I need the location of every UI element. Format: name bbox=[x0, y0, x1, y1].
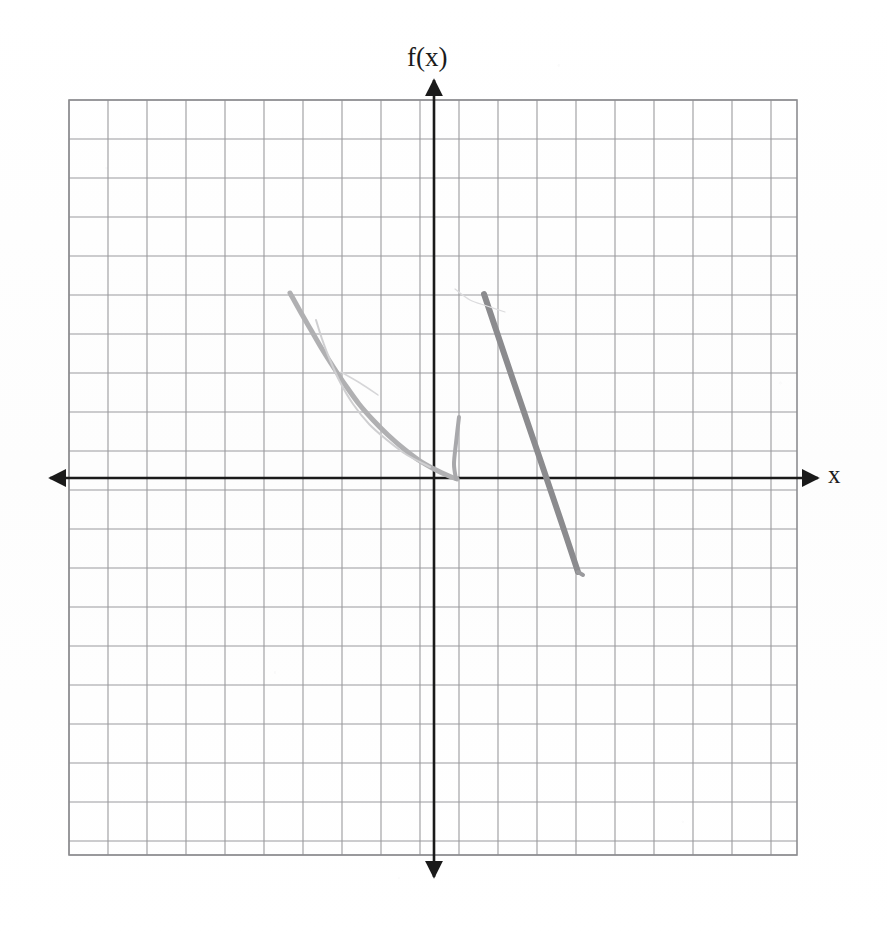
y-axis-label: f(x) bbox=[407, 44, 447, 71]
hand-drawn-curves bbox=[290, 289, 583, 575]
curve-short-vertical-hook bbox=[454, 417, 459, 479]
curve-ghost-erased-stroke bbox=[316, 320, 430, 467]
x-axis-label: x bbox=[828, 462, 841, 487]
curve-right-line-tip-hook bbox=[578, 572, 583, 575]
worksheet-page: f(x) x bbox=[0, 0, 887, 934]
graph-canvas bbox=[0, 0, 887, 934]
coordinate-axes bbox=[50, 80, 818, 877]
